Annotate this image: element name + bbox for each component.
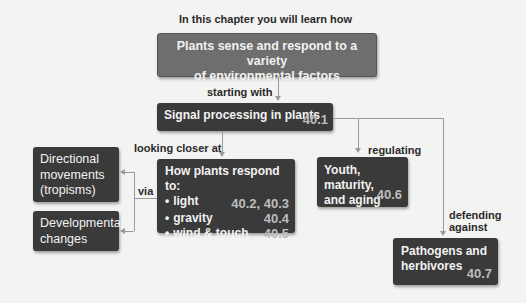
arrow-left-icon xyxy=(120,169,125,175)
main-concept-box: Plants sense and respond to a variety of… xyxy=(157,33,377,77)
connector-label-via: via xyxy=(138,185,153,197)
connector-line xyxy=(124,231,134,232)
plant-responses-title: How plants respond to: xyxy=(165,164,289,194)
signal-processing-box: Signal processing in plants 40.1 xyxy=(157,103,333,131)
connector-label-regulating: regulating xyxy=(368,144,421,156)
response-item-light: •light 40.2, 40.3 xyxy=(165,194,289,211)
connector-label-looking-closer-at: looking closer at xyxy=(134,142,221,154)
main-concept-line2: of environmental factors xyxy=(158,69,376,84)
response-item-wind-touch: •wind & touch 40.5 xyxy=(165,226,289,241)
section-number: 40.4 xyxy=(264,211,289,226)
section-number: 40.5 xyxy=(264,226,289,241)
section-number: 40.7 xyxy=(467,266,492,281)
connector-line xyxy=(333,118,444,119)
pathogens-herbivores-box: Pathogens and herbivores 40.7 xyxy=(393,238,498,285)
connector-label-starting-with: starting with xyxy=(207,86,272,98)
arrow-down-icon xyxy=(275,96,281,101)
connector-line xyxy=(222,131,223,153)
connector-line xyxy=(443,118,444,232)
signal-processing-label: Signal processing in plants xyxy=(164,108,320,122)
directional-movements-box: Directional movements (tropisms) xyxy=(33,147,119,202)
section-number: 40.6 xyxy=(377,187,402,202)
arrow-down-icon xyxy=(440,231,446,236)
connector-line xyxy=(134,198,157,199)
connector-label-against: against xyxy=(449,221,488,233)
connector-label-defending: defending xyxy=(449,209,502,221)
connector-line xyxy=(358,118,359,149)
youth-maturity-aging-box: Youth, maturity, and aging 40.6 xyxy=(317,157,408,207)
response-item-gravity: •gravity 40.4 xyxy=(165,211,289,226)
plant-responses-box: How plants respond to: •light 40.2, 40.3… xyxy=(157,159,295,233)
connector-line xyxy=(278,77,279,97)
section-number: 40.2, 40.3 xyxy=(231,196,289,211)
connector-line xyxy=(124,172,134,173)
connector-line xyxy=(134,172,135,231)
developmental-changes-box: Developmental changes xyxy=(33,211,119,251)
section-number: 40.1 xyxy=(303,112,328,127)
main-concept-line1: Plants sense and respond to a variety xyxy=(158,39,376,69)
chapter-intro-heading: In this chapter you will learn how xyxy=(179,13,352,25)
arrow-down-icon xyxy=(355,148,361,153)
